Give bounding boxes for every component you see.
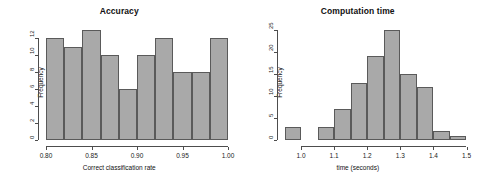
histogram-bar <box>173 72 191 140</box>
x-axis-label: Correct classification rate <box>0 164 239 171</box>
x-axis-tick <box>400 147 401 150</box>
y-axis-tick <box>35 72 38 73</box>
x-axis-tick <box>367 147 368 150</box>
histogram-bar <box>450 136 467 140</box>
histogram-bar <box>384 30 401 140</box>
y-axis-tick <box>35 38 38 39</box>
y-axis-tick <box>274 30 277 31</box>
y-axis-tick <box>35 123 38 124</box>
histogram-bar <box>285 127 302 140</box>
x-axis-tick <box>228 147 229 150</box>
computation-time-histogram-panel: Computation time Frequency time (seconds… <box>239 0 477 185</box>
x-axis-tick <box>433 147 434 150</box>
page-title: Accuracy <box>0 6 239 16</box>
y-axis-tick <box>274 140 277 141</box>
histogram-bar <box>101 55 119 140</box>
page-title: Computation time <box>239 6 477 16</box>
y-axis-tick <box>274 118 277 119</box>
histogram-bar <box>192 72 210 140</box>
x-axis-tick <box>301 147 302 150</box>
x-axis-line <box>301 146 466 147</box>
y-axis-tick <box>35 106 38 107</box>
histogram-bar <box>46 38 64 140</box>
histogram-bar <box>318 127 335 140</box>
histogram-bar <box>400 74 417 140</box>
x-axis-tick-label: 0.95 <box>163 152 203 159</box>
x-axis-tick-label: 0.85 <box>72 152 112 159</box>
histogram-bar <box>155 38 173 140</box>
x-axis-tick <box>467 147 468 150</box>
x-axis-tick <box>137 147 138 150</box>
histogram-bar <box>417 87 434 140</box>
x-axis-tick-label: 0.80 <box>26 152 66 159</box>
histogram-bar <box>82 30 100 140</box>
histogram-panel-row: Accuracy Frequency Correct classificatio… <box>0 0 477 185</box>
histogram-bar <box>433 131 450 140</box>
histogram-bar <box>210 38 228 140</box>
x-axis-label: time (seconds) <box>239 164 477 171</box>
histogram-bar <box>334 109 351 140</box>
y-axis-line <box>277 30 278 140</box>
y-axis-line <box>38 38 39 140</box>
x-axis-tick <box>46 147 47 150</box>
histogram-bar <box>119 89 137 140</box>
histogram-bar <box>351 83 368 140</box>
histogram-bar <box>137 55 155 140</box>
x-axis-tick <box>334 147 335 150</box>
y-axis-tick <box>35 89 38 90</box>
x-axis-tick <box>183 147 184 150</box>
histogram-bar <box>367 56 384 140</box>
y-axis-tick <box>35 140 38 141</box>
y-axis-tick <box>35 55 38 56</box>
x-axis-tick <box>92 147 93 150</box>
y-axis-tick <box>274 52 277 53</box>
x-axis-tick-label: 1.5 <box>447 152 477 159</box>
histogram-bar <box>64 47 82 140</box>
y-axis-tick <box>274 74 277 75</box>
x-axis-tick-label: 0.90 <box>117 152 157 159</box>
accuracy-histogram-panel: Accuracy Frequency Correct classificatio… <box>0 0 239 185</box>
y-axis-tick <box>274 96 277 97</box>
